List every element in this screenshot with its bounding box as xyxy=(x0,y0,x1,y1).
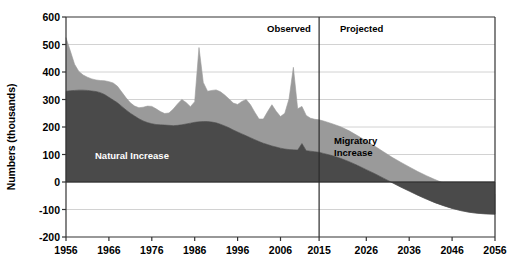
x-tick-label-2046: 2046 xyxy=(440,245,463,256)
x-axis-tick-labels: 1956196619761986199620062015202620362046… xyxy=(0,0,515,274)
migratory-increase-label: Migratory Increase xyxy=(334,135,377,159)
x-tick-label-2056: 2056 xyxy=(483,245,506,256)
migratory-increase-label-line1: Migratory xyxy=(334,135,377,147)
population-change-area-chart: Numbers (thousands) 6005004003002001000-… xyxy=(0,0,515,274)
natural-increase-label: Natural Increase xyxy=(95,150,169,162)
x-tick-label-2015: 2015 xyxy=(307,245,330,256)
x-tick-label-1976: 1976 xyxy=(140,245,163,256)
observed-label: Observed xyxy=(267,23,311,35)
projected-label: Projected xyxy=(340,23,383,35)
x-tick-label-1986: 1986 xyxy=(183,245,206,256)
x-tick-label-2026: 2026 xyxy=(355,245,378,256)
x-tick-label-2006: 2006 xyxy=(269,245,292,256)
x-tick-label-1956: 1956 xyxy=(54,245,77,256)
x-tick-label-1996: 1996 xyxy=(226,245,249,256)
x-tick-label-1966: 1966 xyxy=(97,245,120,256)
x-tick-label-2036: 2036 xyxy=(398,245,421,256)
migratory-increase-label-line2: Increase xyxy=(334,147,377,159)
